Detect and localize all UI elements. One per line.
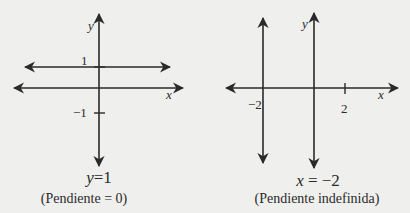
left-tick-label-neg1: −1 [73, 105, 87, 120]
right-y-axis-label: y [300, 16, 308, 31]
left-tick-label-1: 1 [81, 53, 88, 68]
left-equation: y=1 [84, 168, 112, 187]
right-caption: (Pendiente indefinida) [255, 191, 380, 207]
slope-diagram: y x 1 −1 y=1 (Pendiente = 0) y x −2 2 x … [0, 0, 410, 213]
left-graph: y x 1 −1 y=1 (Pendiente = 0) [14, 14, 183, 207]
left-y-axis-label: y [86, 18, 94, 33]
right-graph: y x −2 2 x = −2 (Pendiente indefinida) [226, 13, 398, 207]
left-caption: (Pendiente = 0) [41, 191, 128, 207]
right-x-axis-label: x [377, 87, 384, 102]
right-tick-label-2: 2 [341, 101, 348, 116]
right-equation: x = −2 [295, 171, 340, 190]
left-x-axis-label: x [165, 87, 172, 102]
right-tick-label-neg2: −2 [248, 97, 262, 112]
